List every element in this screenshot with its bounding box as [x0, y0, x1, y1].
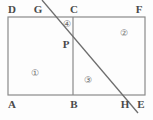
region-label-3: ③	[84, 76, 92, 85]
point-label-D: D	[8, 4, 16, 15]
point-label-F: F	[136, 4, 143, 15]
region-label-1: ①	[31, 69, 39, 78]
point-label-B: B	[70, 99, 77, 110]
point-label-H: H	[121, 99, 130, 110]
region-label-2: ②	[120, 29, 128, 38]
point-label-P: P	[63, 39, 70, 50]
point-label-G: G	[34, 4, 43, 15]
geometry-figure: D G C F P A B H E ① ② ③ ④	[0, 0, 153, 120]
point-label-A: A	[8, 99, 16, 110]
point-label-E: E	[137, 99, 144, 110]
point-label-C: C	[70, 4, 78, 15]
region-label-4: ④	[63, 20, 71, 29]
